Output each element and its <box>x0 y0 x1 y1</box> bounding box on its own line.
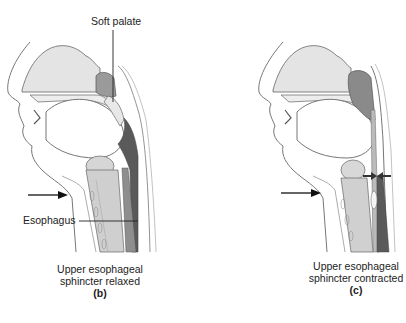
caption-c-line2: sphincter contracted <box>309 272 404 284</box>
head-cross-section-relaxed-illustration <box>0 0 203 270</box>
panel-letter-b: (b) <box>40 287 160 299</box>
panel-c-sphincter-contracted: Upper esophageal sphincter contracted (c… <box>203 0 406 323</box>
esophagus-label: Esophagus <box>23 214 76 226</box>
panel-letter-c: (c) <box>301 284 406 296</box>
caption-b-line1: Upper esophageal <box>57 263 143 275</box>
arrow-right-icon <box>28 191 68 199</box>
head-cross-section-contracted-illustration <box>203 0 406 270</box>
arrow-right-icon <box>281 189 321 197</box>
caption-b-line2: sphincter relaxed <box>60 275 140 287</box>
caption-c: Upper esophageal sphincter contracted (c… <box>301 260 406 296</box>
caption-b: Upper esophageal sphincter relaxed (b) <box>40 263 160 299</box>
panel-b-sphincter-relaxed: Soft palate Esophagus Upper esophageal s… <box>0 0 203 323</box>
soft-palate-label: Soft palate <box>91 15 141 27</box>
caption-c-line1: Upper esophageal <box>313 260 399 272</box>
